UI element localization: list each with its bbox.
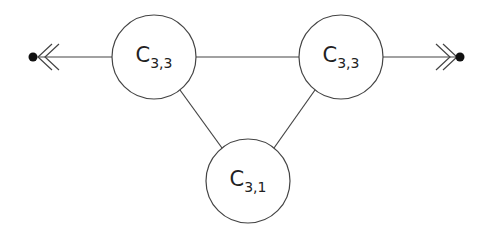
node-bottom-label-main: C	[230, 167, 245, 191]
node-right-label: C3,3	[323, 43, 360, 67]
edge-left-bottom	[180, 90, 222, 148]
node-left-label-sub: 3,3	[150, 55, 172, 71]
edge-right-bottom	[274, 90, 315, 148]
node-left-label: C3,3	[136, 43, 173, 67]
node-left-label-main: C	[136, 43, 151, 67]
node-bottom-label-sub: 3,1	[244, 179, 266, 195]
node-right-label-main: C	[323, 43, 338, 67]
graph-diagram: C3,3 C3,3 C3,1	[0, 0, 495, 229]
terminal-dot-left-icon	[29, 53, 38, 62]
terminal-dot-right-icon	[456, 53, 465, 62]
node-right-label-sub: 3,3	[337, 55, 359, 71]
node-bottom-label: C3,1	[230, 167, 267, 191]
